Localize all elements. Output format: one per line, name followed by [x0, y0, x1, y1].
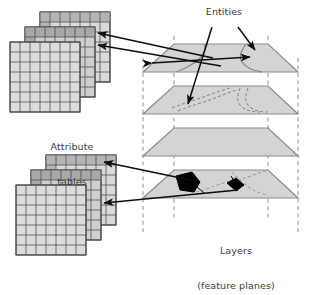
feature-plane-4-surface [143, 170, 298, 198]
label-attribute-tables: Attribute tables [14, 118, 130, 210]
label-layers-line2: (feature planes) [176, 280, 296, 292]
upper-attribute-table-stack[interactable] [10, 12, 110, 112]
feature-plane-2-surface [143, 86, 298, 114]
label-attribute-tables-line2: tables [14, 176, 130, 188]
upper-table-front[interactable] [10, 42, 80, 112]
feature-plane-3-surface [143, 128, 298, 156]
label-layers: Layers (feature planes) [176, 222, 296, 295]
label-entities: Entities [178, 6, 270, 18]
label-attribute-tables-line1: Attribute [14, 141, 130, 153]
feature-plane-4[interactable] [143, 170, 298, 198]
feature-plane-3[interactable] [143, 128, 298, 156]
label-layers-line1: Layers [176, 245, 296, 257]
feature-plane-2[interactable] [143, 86, 298, 114]
